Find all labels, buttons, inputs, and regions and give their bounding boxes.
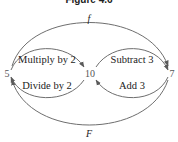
label-subtract-3: Subtract 3	[111, 54, 154, 65]
node-10: 10	[85, 68, 95, 79]
node-5: 5	[5, 68, 10, 79]
label-add-3: Add 3	[119, 80, 145, 91]
node-7: 7	[170, 68, 175, 79]
label-multiply-by-2: Multiply by 2	[18, 54, 76, 65]
function-composition-diagram: Figure 4.6 f F Multiply by 2 Divide by 2…	[0, 0, 178, 142]
label-divide-by-2: Divide by 2	[22, 80, 72, 91]
diagram-svg: Figure 4.6 f F Multiply by 2 Divide by 2…	[0, 0, 178, 142]
figure-title: Figure 4.6	[65, 0, 113, 5]
label-F: F	[85, 128, 93, 139]
